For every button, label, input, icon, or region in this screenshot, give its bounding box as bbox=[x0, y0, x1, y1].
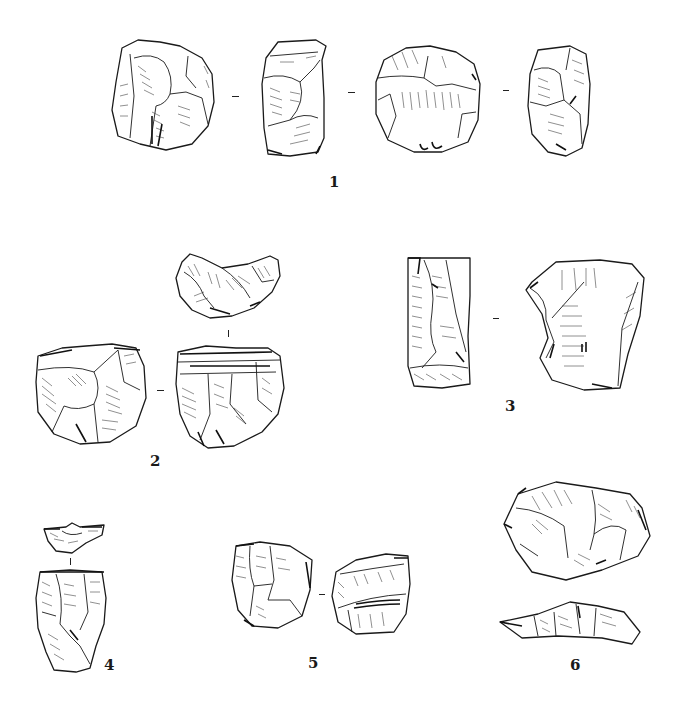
figure-5-view-b bbox=[330, 552, 414, 638]
figure-label-3: 3 bbox=[505, 399, 515, 414]
view-separator-dash bbox=[70, 558, 71, 565]
view-separator-dash bbox=[493, 318, 499, 319]
view-separator-dash bbox=[232, 96, 239, 97]
figure-3-view-b bbox=[522, 258, 646, 394]
figure-1-view-c bbox=[372, 42, 486, 158]
view-separator-dash bbox=[503, 90, 509, 91]
view-separator-dash bbox=[319, 594, 325, 595]
figure-2-view-top bbox=[174, 252, 284, 326]
view-separator-dash bbox=[228, 330, 229, 337]
figure-label-6: 6 bbox=[570, 658, 580, 673]
figure-label-2: 2 bbox=[150, 454, 160, 469]
figure-label-4: 4 bbox=[104, 658, 114, 673]
artifact-plate: 1 bbox=[0, 0, 686, 708]
figure-4-view-main bbox=[34, 568, 108, 676]
figure-4-view-top bbox=[42, 523, 108, 557]
figure-label-1: 1 bbox=[329, 175, 339, 190]
figure-1-view-a bbox=[108, 36, 222, 154]
figure-6-view-top bbox=[502, 480, 652, 582]
figure-1-view-b bbox=[260, 38, 334, 160]
view-separator-dash bbox=[348, 92, 355, 93]
figure-1-view-d bbox=[526, 44, 592, 160]
figure-2-view-right bbox=[172, 344, 286, 454]
view-separator-dash bbox=[157, 390, 164, 391]
figure-2-view-left bbox=[32, 342, 150, 448]
figure-5-view-a bbox=[230, 540, 316, 632]
figure-6-view-side bbox=[498, 600, 644, 646]
figure-label-5: 5 bbox=[308, 656, 318, 671]
figure-3-view-a bbox=[406, 256, 474, 392]
